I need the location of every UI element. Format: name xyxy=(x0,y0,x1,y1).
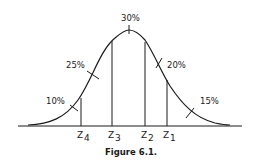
label-20: 20% xyxy=(167,60,186,70)
svg-text:4: 4 xyxy=(84,133,90,143)
svg-text:2: 2 xyxy=(148,133,154,143)
svg-text:1: 1 xyxy=(170,133,176,143)
label-15: 15% xyxy=(200,96,219,106)
label-30: 30% xyxy=(121,13,140,23)
z4-label: Z 4 xyxy=(77,130,90,143)
svg-text:Z: Z xyxy=(108,130,114,140)
svg-text:Z: Z xyxy=(77,130,83,140)
svg-text:3: 3 xyxy=(115,133,121,143)
label-10: 10% xyxy=(46,96,65,106)
label-25: 25% xyxy=(66,60,85,70)
svg-text:Z: Z xyxy=(163,130,169,140)
z1-label: Z 1 xyxy=(163,130,176,143)
figure-caption: Figure 6.1. xyxy=(105,147,157,157)
bell-curve xyxy=(28,30,230,125)
normal-curve-diagram: 10% 25% 30% 20% 15% Z 4 Z 3 Z 2 Z 1 Figu… xyxy=(0,0,255,162)
z3-label: Z 3 xyxy=(108,130,121,143)
z2-label: Z 2 xyxy=(141,130,154,143)
svg-text:Z: Z xyxy=(141,130,147,140)
